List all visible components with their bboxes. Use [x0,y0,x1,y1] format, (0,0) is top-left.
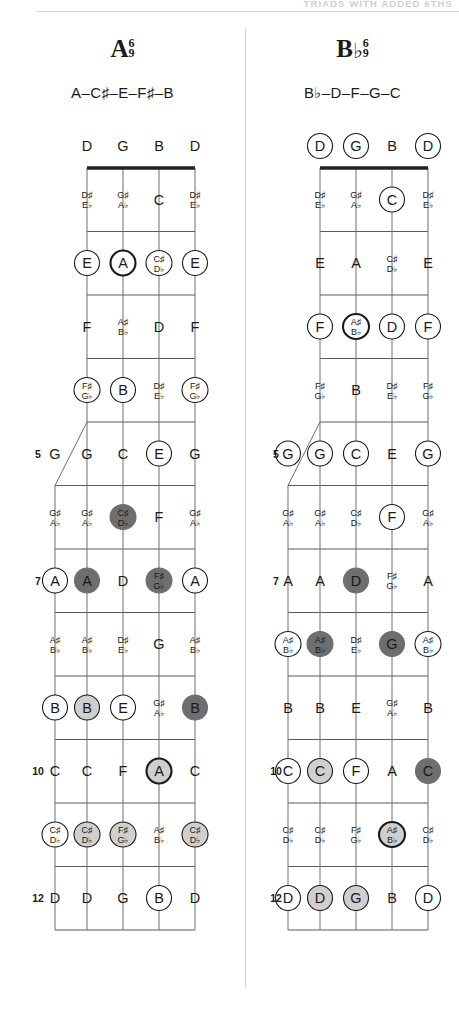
svg-text:A♯: A♯ [190,635,201,645]
svg-text:F♯: F♯ [118,825,128,835]
svg-text:B: B [387,138,397,154]
svg-text:G♭: G♭ [422,391,433,401]
svg-text:E♭: E♭ [82,200,92,210]
svg-text:A♭: A♭ [154,708,164,718]
svg-text:G: G [314,446,325,462]
svg-text:D: D [82,138,92,154]
svg-text:G♭: G♭ [81,391,92,401]
svg-text:E♭: E♭ [387,391,397,401]
svg-text:E: E [154,446,164,462]
svg-text:G♭: G♭ [189,391,200,401]
svg-text:A: A [387,763,397,779]
svg-text:B: B [82,700,92,716]
svg-text:F: F [388,509,397,525]
svg-text:G♯: G♯ [117,190,129,200]
svg-text:E: E [190,255,200,271]
svg-text:G: G [153,636,164,652]
svg-text:B: B [283,700,293,716]
svg-text:D♭: D♭ [315,835,326,845]
svg-text:B: B [351,382,361,398]
svg-text:B: B [118,382,128,398]
svg-text:A: A [190,573,200,589]
svg-text:D♭: D♭ [154,264,165,274]
svg-text:B♭: B♭ [351,327,361,337]
svg-text:G♯: G♯ [386,698,398,708]
svg-text:B♭: B♭ [190,645,200,655]
svg-text:A♭: A♭ [283,518,293,528]
svg-text:F: F [316,319,325,335]
svg-text:D: D [82,890,92,906]
svg-text:A♭: A♭ [351,200,361,210]
svg-text:C♯: C♯ [50,825,61,835]
svg-text:D♯: D♯ [423,190,434,200]
svg-text:D: D [154,319,164,335]
svg-text:D♭: D♭ [351,518,362,528]
svg-text:B: B [315,700,325,716]
svg-text:D♭: D♭ [423,835,434,845]
svg-text:G: G [81,446,92,462]
svg-text:B♭: B♭ [154,835,164,845]
svg-text:10: 10 [32,765,44,777]
svg-text:F: F [191,319,200,335]
svg-text:C♯: C♯ [423,825,434,835]
svg-text:G♭: G♭ [153,581,164,591]
svg-text:E: E [118,700,128,716]
svg-text:A: A [351,255,361,271]
svg-text:C♯: C♯ [82,825,93,835]
svg-text:D: D [387,319,397,335]
svg-text:A♯: A♯ [351,317,362,327]
svg-text:C♯: C♯ [190,825,201,835]
svg-text:G♯: G♯ [189,508,201,518]
svg-text:F♯: F♯ [351,825,361,835]
svg-text:G: G [189,446,200,462]
svg-text:B: B [423,700,433,716]
svg-text:A: A [82,573,92,589]
svg-text:D♯: D♯ [82,190,93,200]
svg-text:E♭: E♭ [351,645,361,655]
svg-text:A♯: A♯ [50,635,61,645]
svg-text:G: G [422,446,433,462]
svg-text:F♯: F♯ [190,381,200,391]
svg-text:C: C [387,192,397,208]
svg-text:D♯: D♯ [154,381,165,391]
svg-text:A♭: A♭ [387,708,397,718]
svg-text:G: G [117,138,128,154]
svg-text:G♭: G♭ [314,391,325,401]
svg-text:F: F [83,319,92,335]
svg-text:A: A [118,255,128,271]
svg-text:E♭: E♭ [315,200,325,210]
svg-text:A♯: A♯ [283,635,294,645]
svg-text:F: F [352,763,361,779]
svg-text:B: B [50,700,60,716]
svg-text:D: D [50,890,60,906]
svg-text:G♯: G♯ [422,508,434,518]
svg-text:B♭: B♭ [283,645,293,655]
fretboard-right[interactable]: DGBDD♯E♭G♯A♭CD♯E♭EAC♯D♭EFA♯B♭DFF♯G♭BD♯E♭… [246,0,459,1018]
svg-text:A♭: A♭ [50,518,60,528]
fretboard-left[interactable]: DGBDD♯E♭G♯A♭CD♯E♭EAC♯D♭EFA♯B♭DFF♯G♭BD♯E♭… [0,0,245,1018]
svg-text:E: E [423,255,433,271]
svg-text:B: B [190,700,200,716]
svg-text:D: D [423,138,433,154]
svg-text:A♯: A♯ [423,635,434,645]
svg-text:C: C [118,446,128,462]
svg-text:F: F [119,763,128,779]
svg-text:12: 12 [32,892,44,904]
svg-text:E♭: E♭ [154,391,164,401]
svg-text:D: D [190,890,200,906]
svg-text:A: A [283,573,293,589]
svg-text:E: E [315,255,325,271]
svg-text:G♯: G♯ [49,508,61,518]
svg-text:A♭: A♭ [315,518,325,528]
svg-text:D♭: D♭ [50,835,61,845]
svg-text:F: F [424,319,433,335]
svg-text:B: B [154,138,164,154]
svg-text:A♭: A♭ [118,200,128,210]
svg-text:C♯: C♯ [387,254,398,264]
svg-text:F♯: F♯ [387,571,397,581]
svg-text:C: C [283,763,293,779]
svg-text:B♭: B♭ [50,645,60,655]
svg-text:D♯: D♯ [190,190,201,200]
svg-text:G♭: G♭ [386,581,397,591]
svg-text:A: A [50,573,60,589]
